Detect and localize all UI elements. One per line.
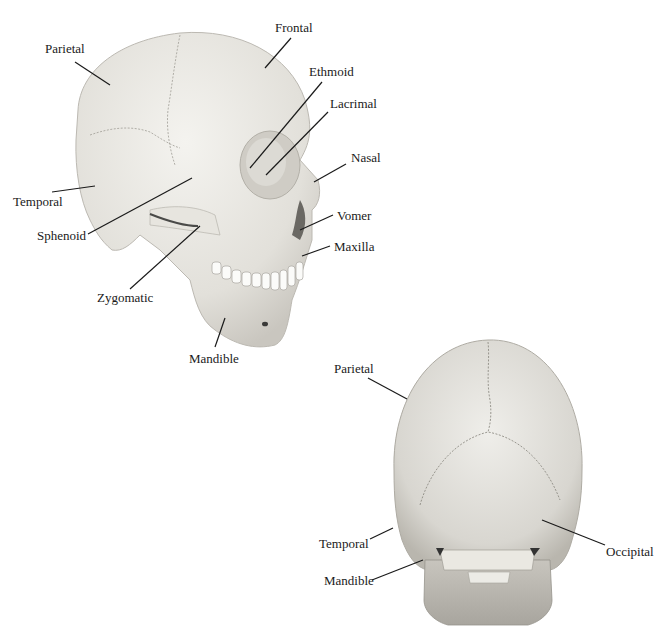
label-mandible-posterior: Mandible [324, 574, 374, 588]
label-parietal-lateral: Parietal [45, 42, 85, 56]
posterior-skull-icon [394, 340, 582, 625]
label-zygomatic: Zygomatic [97, 291, 153, 305]
label-temporal-posterior: Temporal [319, 537, 369, 551]
label-mandible-lateral: Mandible [189, 352, 239, 366]
label-occipital: Occipital [606, 545, 654, 559]
label-temporal-lateral: Temporal [13, 195, 63, 209]
label-vomer: Vomer [337, 209, 371, 223]
label-nasal: Nasal [351, 151, 381, 165]
label-maxilla: Maxilla [334, 240, 374, 254]
label-parietal-posterior: Parietal [334, 362, 374, 376]
label-sphenoid: Sphenoid [37, 229, 86, 243]
label-frontal: Frontal [275, 21, 313, 35]
label-lacrimal: Lacrimal [330, 97, 377, 111]
label-ethmoid: Ethmoid [309, 65, 354, 79]
skull-diagram: Parietal Frontal Ethmoid Lacrimal Nasal … [0, 0, 666, 636]
